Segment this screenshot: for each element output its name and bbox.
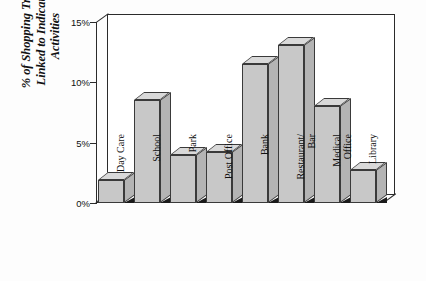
y-tick-0% — [90, 203, 97, 204]
y-tick-label: 5% — [76, 137, 90, 148]
y-tick-label: 10% — [71, 77, 90, 88]
x-axis-label: Bank — [260, 134, 271, 208]
y-axis-title-line-2: Linked to Indicated — [34, 0, 49, 88]
y-axis-title-line-1: % of Shopping Trips — [19, 0, 34, 88]
x-axis-label: Park — [188, 134, 199, 208]
x-axis-label: Restaurant/ Bar — [296, 134, 318, 208]
x-axis-label: Post Office — [224, 134, 235, 208]
x-axis-label: School — [152, 134, 163, 208]
y-axis-title: % of Shopping Trips Linked to Indicated … — [19, 0, 63, 131]
chart-figure: % of Shopping Trips Linked to Indicated … — [0, 0, 426, 281]
x-axis-label: Medical Office — [332, 134, 354, 208]
y-axis-title-line-3: Activities — [48, 0, 63, 88]
y-tick-label: 0% — [76, 198, 90, 209]
y-tick-label: 15% — [71, 17, 90, 28]
x-axis-label: Library — [368, 134, 379, 208]
x-axis-label: Day Care — [116, 134, 127, 208]
